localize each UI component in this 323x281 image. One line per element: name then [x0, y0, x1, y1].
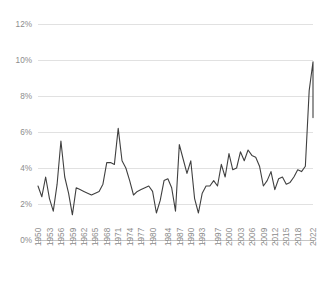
x-tick-label: 1980: [149, 227, 158, 246]
x-tick-label: 1968: [103, 227, 112, 246]
x-tick-label: 1984: [164, 227, 173, 246]
x-tick-label: 2022: [309, 227, 318, 246]
x-tick-label: 1953: [46, 227, 55, 246]
x-tick-label: 1959: [69, 227, 78, 246]
y-tick-label: 12%: [16, 20, 32, 29]
y-tick-label: 6%: [20, 128, 32, 137]
x-tick-label: 1971: [114, 227, 123, 246]
x-tick-label: 1965: [91, 227, 100, 246]
series-line-0: [38, 62, 313, 215]
x-tick-label: 1977: [137, 227, 146, 246]
x-tick-label: 2015: [282, 227, 291, 246]
x-tick-label: 1950: [34, 227, 43, 246]
x-tick-label: 1974: [126, 227, 135, 246]
y-tick-label: 10%: [16, 56, 32, 65]
x-tick-label: 2012: [271, 227, 280, 246]
x-tick-label: 2003: [237, 227, 246, 246]
y-tick-label: 4%: [20, 164, 32, 173]
x-tick-label: 1997: [214, 227, 223, 246]
line-chart: 0%2%4%6%8%10%12% 19501953195619591962196…: [0, 0, 323, 281]
y-tick-label: 0%: [20, 236, 32, 245]
y-axis-labels: 0%2%4%6%8%10%12%: [16, 20, 32, 245]
x-tick-label: 2006: [248, 227, 257, 246]
x-tick-label: 1990: [187, 227, 196, 246]
x-axis-labels: 1950195319561959196219651968197119741977…: [34, 227, 318, 246]
x-tick-label: 1962: [80, 227, 89, 246]
x-tick-label: 2018: [294, 227, 303, 246]
y-tick-label: 2%: [20, 200, 32, 209]
x-tick-label: 2000: [225, 227, 234, 246]
x-tick-label: 1956: [57, 227, 66, 246]
x-tick-label: 1993: [198, 227, 207, 246]
data-series: [38, 62, 313, 215]
x-tick-label: 2009: [260, 227, 269, 246]
chart-canvas: 0%2%4%6%8%10%12% 19501953195619591962196…: [0, 0, 323, 281]
y-tick-label: 8%: [20, 92, 32, 101]
x-tick-label: 1987: [176, 227, 185, 246]
